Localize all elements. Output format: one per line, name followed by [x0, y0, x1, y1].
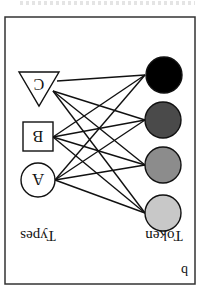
token-circle-light-gray [145, 195, 181, 231]
types-column-label: Types [20, 228, 56, 244]
panel-label: b [181, 263, 188, 278]
bipartite-diagram: A B C Token Types b [0, 0, 201, 291]
token-circle-medium-gray [145, 147, 181, 183]
token-circle-black [146, 57, 182, 93]
type-label-c: C [34, 76, 45, 93]
type-label-a: A [31, 170, 44, 189]
token-column-label: Token [145, 228, 183, 244]
type-label-b: B [33, 128, 44, 145]
figure-panel-b: A B C Token Types b [0, 0, 201, 291]
token-circle-dark-gray [145, 102, 181, 138]
